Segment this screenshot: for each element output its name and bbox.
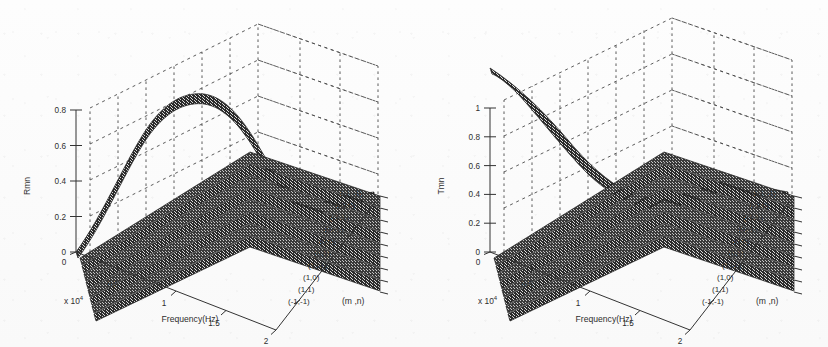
xtick-0: 0	[62, 258, 67, 267]
ztick-3: 0.2	[55, 213, 67, 222]
ztick-0: 0.8	[55, 106, 67, 115]
ytick-label-4: (0,0)	[733, 237, 750, 246]
ztick-1: 0.6	[55, 142, 67, 151]
figure-panels: 0.8 0.6 0.4 0.2 0 Rmn 0 0.5 1 1.5 2 x 10…	[0, 0, 828, 347]
ytick-label-6: (1,-1)	[722, 261, 741, 270]
ytick-label-2: (-1,1)	[744, 213, 763, 222]
ytick-label-5: (0,1)	[728, 249, 745, 258]
xtick-4: 2	[678, 337, 683, 346]
ztick-2: 0.6	[469, 162, 481, 171]
ytick-label-7: (1,0)	[717, 273, 734, 282]
z-axis	[70, 110, 82, 252]
ztick-2: 0.4	[55, 177, 67, 186]
ytick-label-1: (-1,0)	[750, 201, 769, 210]
ztick-4: 0.2	[469, 219, 481, 228]
ytick-label-7: (1,0)	[303, 273, 320, 282]
rmn-axes-svg: 0.8 0.6 0.4 0.2 0 Rmn 0 0.5 1 1.5 2 x 10…	[0, 0, 414, 347]
ytick-label-2: (-1,1)	[330, 213, 349, 222]
grid-right-wall	[672, 18, 792, 168]
xtick-4: 2	[264, 337, 269, 346]
y-axis-label-mn: (m ,n)	[342, 296, 365, 306]
xtick-2: 1	[162, 299, 167, 308]
x-axis-exponent: x 104	[478, 295, 498, 306]
grid-right-wall	[258, 24, 378, 174]
ytick-label-8: (1,1)	[712, 285, 729, 294]
x-axis-label-frequency: Frequency(Hz)	[162, 314, 219, 324]
ytick-label-9: (-1,-1)	[288, 297, 310, 306]
ytick-label-9: (-1,-1)	[702, 297, 724, 306]
ztick-0: 1	[475, 104, 480, 113]
xtick-2: 1	[576, 299, 581, 308]
ytick-label-5: (0,1)	[314, 249, 331, 258]
y-axis-label-mn: (m ,n)	[756, 296, 779, 306]
ytick-label-3: (0,-1)	[738, 225, 757, 234]
plot-panel-rmn: 0.8 0.6 0.4 0.2 0 Rmn 0 0.5 1 1.5 2 x 10…	[0, 0, 414, 347]
z-axis	[484, 108, 496, 252]
x-axis-label-frequency: Frequency(Hz)	[576, 314, 633, 324]
ztick-1: 0.8	[469, 133, 481, 142]
z-axis-label-tmn: Tmn	[436, 177, 446, 194]
ytick-label-4: (0,0)	[319, 237, 336, 246]
x-axis-exponent: x 104	[64, 295, 84, 306]
ytick-label-6: (1,-1)	[308, 261, 327, 270]
ytick-label-0: (-1,-1)	[754, 189, 776, 198]
ytick-label-1: (-1,0)	[336, 201, 355, 210]
ytick-label-0: (-1,-1)	[340, 189, 362, 198]
ztick-4: 0	[61, 248, 66, 257]
ztick-5: 0	[475, 248, 480, 257]
xtick-1: 0.5	[521, 280, 533, 289]
ztick-3: 0.4	[469, 190, 481, 199]
waterfall-surface	[490, 68, 794, 321]
ytick-label-8: (1,1)	[298, 285, 315, 294]
z-axis-label-rmn: Rmn	[22, 177, 32, 195]
xtick-0: 0	[476, 258, 481, 267]
ytick-label-3: (0,-1)	[324, 225, 343, 234]
xtick-1: 0.5	[107, 280, 119, 289]
plot-panel-tmn: 1 0.8 0.6 0.4 0.2 0 Tmn 0 0.5 1 1.5 2 x …	[414, 0, 828, 347]
tmn-axes-svg: 1 0.8 0.6 0.4 0.2 0 Tmn 0 0.5 1 1.5 2 x …	[414, 0, 828, 347]
